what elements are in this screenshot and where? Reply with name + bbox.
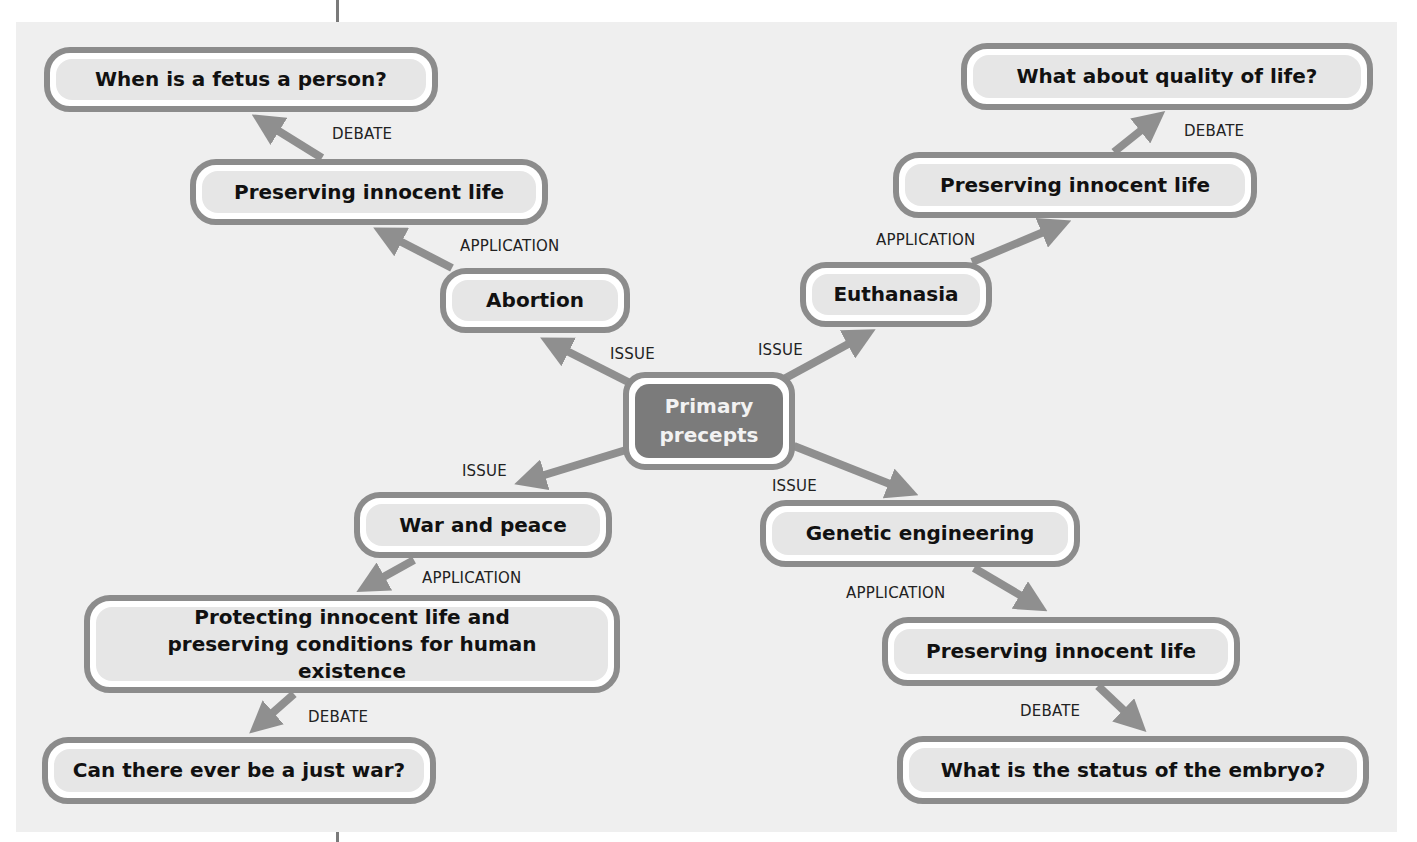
issue-node-euthanasia: Euthanasia <box>800 262 992 327</box>
issue-label: Euthanasia <box>812 274 980 315</box>
edge-label-debate-war: DEBATE <box>308 708 368 726</box>
edge-label-issue-genetic: ISSUE <box>772 477 817 495</box>
application-label: Protecting innocent life and preserving … <box>96 607 608 681</box>
issue-node-war-and-peace: War and peace <box>354 492 612 558</box>
arrow-war-application-to-debate <box>260 694 294 724</box>
edge-label-application-genetic: APPLICATION <box>846 584 946 602</box>
application-node-abortion: Preserving innocent life <box>190 159 548 225</box>
edge-label-debate-euthanasia: DEBATE <box>1184 122 1244 140</box>
edge-label-application-abortion: APPLICATION <box>460 237 560 255</box>
edge-label-debate-abortion: DEBATE <box>332 125 392 143</box>
edge-label-issue-euthanasia: ISSUE <box>758 341 803 359</box>
edge-label-application-war: APPLICATION <box>422 569 522 587</box>
debate-node-euthanasia: What about quality of life? <box>961 43 1373 110</box>
application-node-genetic-engineering: Preserving innocent life <box>882 617 1240 686</box>
edge-label-debate-genetic: DEBATE <box>1020 702 1080 720</box>
issue-node-abortion: Abortion <box>440 268 630 333</box>
edge-label-issue-abortion: ISSUE <box>610 345 655 363</box>
arrow-abortion-to-application <box>386 234 452 268</box>
debate-label: Can there ever be a just war? <box>54 749 424 792</box>
application-node-euthanasia: Preserving innocent life <box>893 152 1257 218</box>
debate-node-abortion: When is a fetus a person? <box>44 47 438 112</box>
arrow-genetic-application-to-debate <box>1098 686 1136 722</box>
primary-precepts-node: Primary precepts <box>623 372 795 470</box>
application-label: Preserving innocent life <box>905 164 1245 206</box>
application-node-war-and-peace: Protecting innocent life and preserving … <box>84 595 620 693</box>
arrow-war-to-application <box>369 560 414 585</box>
arrow-euthanasia-to-application <box>972 226 1058 262</box>
application-label: Preserving innocent life <box>202 171 536 213</box>
issue-label: Genetic engineering <box>772 512 1068 555</box>
arrow-genetic-to-application <box>974 568 1035 604</box>
primary-precepts-label: Primary precepts <box>635 384 783 458</box>
edge-label-application-euthanasia: APPLICATION <box>876 231 976 249</box>
arrow-abortion-application-to-debate <box>264 122 322 158</box>
debate-label: When is a fetus a person? <box>56 59 426 100</box>
arrow-to-war-and-peace <box>528 450 626 480</box>
application-label: Preserving innocent life <box>894 629 1228 674</box>
debate-node-war-and-peace: Can there ever be a just war? <box>42 737 436 804</box>
debate-label: What about quality of life? <box>973 55 1361 98</box>
debate-label: What is the status of the embryo? <box>909 748 1357 792</box>
issue-node-genetic-engineering: Genetic engineering <box>760 500 1080 567</box>
debate-node-genetic-engineering: What is the status of the embryo? <box>897 736 1369 804</box>
issue-label: Abortion <box>452 280 618 321</box>
edge-label-issue-war: ISSUE <box>462 462 507 480</box>
issue-label: War and peace <box>366 504 600 546</box>
arrow-euthanasia-application-to-debate <box>1114 120 1154 152</box>
